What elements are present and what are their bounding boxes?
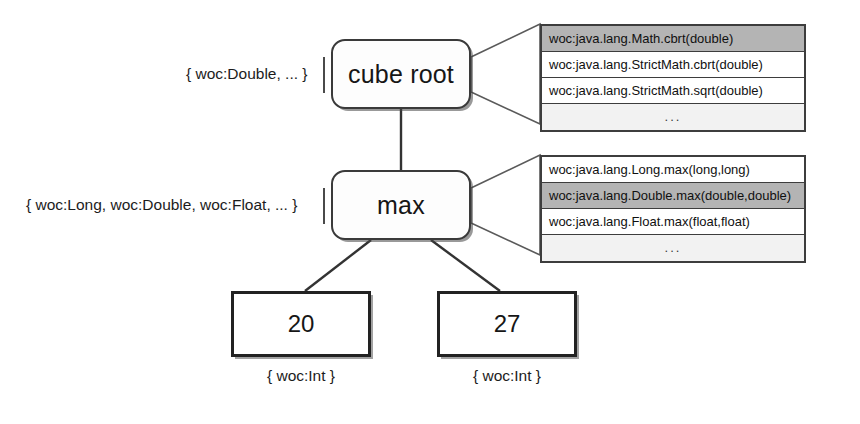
node-max[interactable]: max	[331, 170, 471, 240]
candidate-row[interactable]: woc:java.lang.Double.max(double,double)	[542, 183, 804, 209]
candidate-list-cube-root[interactable]: woc:java.lang.Math.cbrt(double) woc:java…	[540, 24, 806, 132]
candidate-list-max[interactable]: woc:java.lang.Long.max(long,long) woc:ja…	[540, 155, 806, 263]
node-max-label: max	[377, 191, 425, 220]
candidate-row[interactable]: woc:java.lang.Float.max(float,float)	[542, 209, 804, 235]
leaf-node-27[interactable]: 27	[437, 291, 577, 357]
typeset-leaf-27: { woc:Int }	[452, 367, 562, 385]
typeset-leaf-20: { woc:Int }	[246, 367, 356, 385]
leaf-node-27-label: 27	[494, 310, 521, 338]
node-cube-root[interactable]: cube root	[331, 39, 471, 109]
diagram-canvas: cube root max 20 27 { woc:Double, ... } …	[0, 0, 860, 424]
edge-max-leaf20	[305, 240, 371, 291]
candidate-row[interactable]: woc:java.lang.StrictMath.sqrt(double)	[542, 78, 804, 104]
leaf-node-20-label: 20	[288, 310, 315, 338]
tick-max	[323, 188, 325, 224]
typeset-cube-root: { woc:Double, ... }	[186, 65, 308, 83]
candidate-row[interactable]: woc:java.lang.Math.cbrt(double)	[542, 26, 804, 52]
candidate-row[interactable]: woc:java.lang.Long.max(long,long)	[542, 157, 804, 183]
callout-wedge-cube-root	[471, 24, 540, 124]
tick-cube-root	[323, 57, 325, 93]
leaf-node-20[interactable]: 20	[231, 291, 371, 357]
callout-wedge-max	[471, 155, 540, 255]
candidate-row-more[interactable]: ...	[542, 104, 804, 130]
node-cube-root-label: cube root	[348, 60, 454, 89]
candidate-row[interactable]: woc:java.lang.StrictMath.cbrt(double)	[542, 52, 804, 78]
edge-max-leaf27	[431, 240, 500, 291]
candidate-row-more[interactable]: ...	[542, 235, 804, 261]
typeset-max: { woc:Long, woc:Double, woc:Float, ... }	[26, 196, 297, 214]
